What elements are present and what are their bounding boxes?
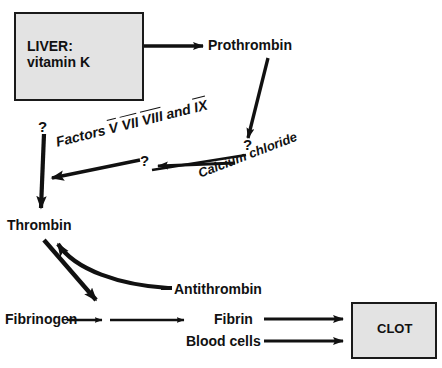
factor-five-numeral: V <box>107 119 120 137</box>
arrow-factors-to-activation <box>52 160 140 178</box>
question-mark-conversion: ? <box>140 152 149 169</box>
antithrombin-label: Antithrombin <box>174 281 262 297</box>
blood-cells-label: Blood cells <box>186 333 261 349</box>
arrow-prothrombin-to-conversion <box>248 58 268 138</box>
clot-label: CLOT <box>377 322 412 337</box>
prothrombin-label: Prothrombin <box>208 37 292 53</box>
question-mark-activation: ? <box>38 118 47 135</box>
arrow-activation-to-thrombin <box>41 134 44 208</box>
fibrin-label: Fibrin <box>214 311 253 327</box>
question-mark-calcium: ? <box>243 136 252 153</box>
liver-label-line2: vitamin K <box>27 54 90 70</box>
thrombin-label: Thrombin <box>7 217 72 233</box>
fibrinogen-label: Fibrinogen <box>5 311 77 327</box>
arrow-antithrombin-to-thrombin <box>58 244 168 288</box>
coagulation-diagram: LIVER: vitamin K CLOT Prothrombin Thromb… <box>0 0 442 368</box>
liver-label-line1: LIVER: <box>27 38 73 54</box>
liver-label: LIVER: vitamin K <box>27 38 90 70</box>
